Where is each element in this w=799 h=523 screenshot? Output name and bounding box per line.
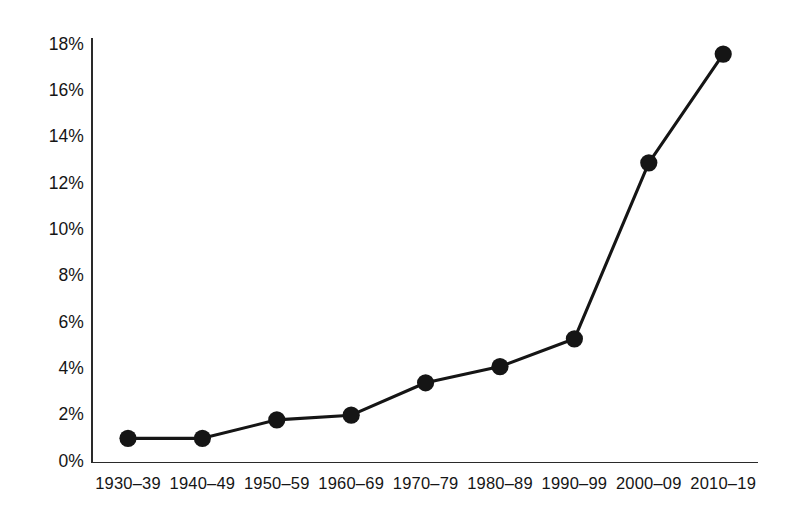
data-point-marker: 1960–69: 2% — [343, 407, 360, 424]
data-point-marker: 1940–49: 1% — [194, 430, 211, 447]
data-point-marker: 1970–79: 3.4% — [417, 374, 434, 391]
data-point-marker: 1930–39: 1% — [119, 430, 136, 447]
data-point-marker: 2000–09: 12.9% — [640, 154, 657, 171]
data-point-marker: 2010–19: 17.6% — [715, 45, 732, 62]
series-markers: 1930–39: 1%1940–49: 1%1950–59: 1.8%1960–… — [119, 45, 731, 446]
data-point-marker: 1990–99: 5.3% — [566, 330, 583, 347]
line-chart: 0%2%4%6%8%10%12%14%16%18% 1930–391940–49… — [0, 0, 799, 523]
data-point-marker: 1980–89: 4.1% — [491, 358, 508, 375]
data-point-marker: 1950–59: 1.8% — [268, 411, 285, 428]
data-series-layer: 1930–39: 1%1940–49: 1%1950–59: 1.8%1960–… — [0, 0, 799, 523]
